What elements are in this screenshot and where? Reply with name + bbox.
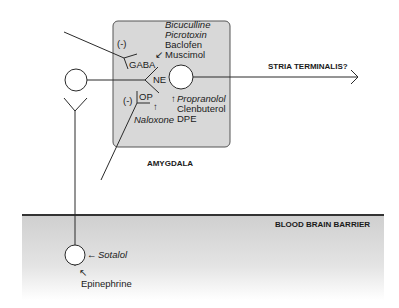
arrow-left-icon: ← — [87, 249, 97, 260]
peripheral-neuron-soma — [65, 245, 85, 265]
blood-brain-barrier-label: BLOOD BRAIN BARRIER — [275, 220, 370, 229]
drug-naloxone: Naloxone — [134, 114, 174, 125]
memory-modulation-diagram: BLOOD BRAIN BARRIER AMYGDALA (-) GABA Bi… — [0, 0, 399, 308]
drug-epinephrine: Epinephrine — [81, 278, 132, 289]
gaba-receptor-label: GABA — [129, 59, 156, 70]
arrow-up-icon-naloxone: ↑ — [153, 101, 158, 112]
ne-receptor-label: NE — [153, 74, 166, 85]
left-neuron-soma — [65, 69, 87, 91]
op-modulation-label: (-) — [123, 95, 133, 106]
gaba-modulation-label: (-) — [117, 38, 127, 49]
drug-muscimol: Muscimol — [165, 49, 205, 60]
stria-terminalis-label: STRIA TERMINALIS? — [268, 62, 348, 71]
drug-dpe: DPE — [177, 113, 197, 124]
arrow-up-left-icon: ↖ — [79, 267, 87, 278]
op-receptor-label: OP — [139, 91, 153, 102]
amygdala-label: AMYGDALA — [147, 159, 193, 168]
drug-sotalol: Sotalol — [98, 249, 128, 260]
arrow-down-left-icon: ↙ — [155, 49, 163, 60]
dendrite-branch-1 — [64, 98, 75, 111]
amygdala-neuron-soma — [169, 65, 193, 89]
dendrite-branch-2 — [75, 98, 87, 111]
arrow-up-icon: ↑ — [171, 93, 176, 104]
